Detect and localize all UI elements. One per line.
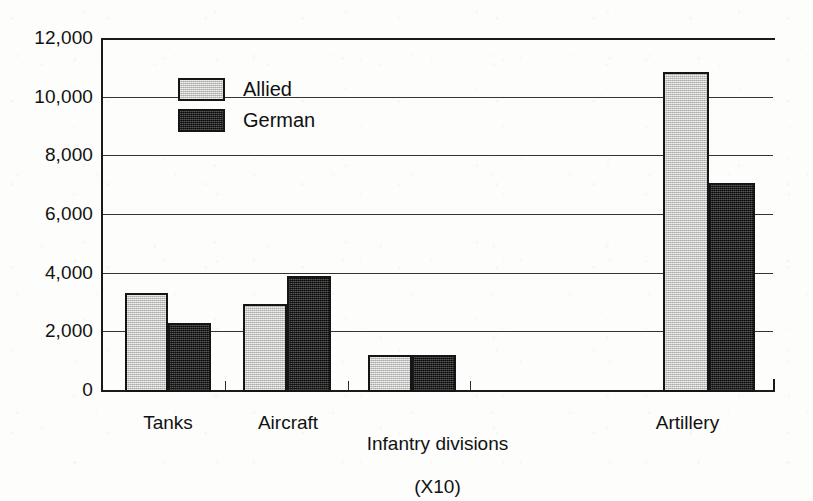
bar-tanks-allied	[125, 293, 168, 392]
x-axis-right-end-tick	[773, 379, 775, 392]
legend-label-german: German	[243, 109, 315, 132]
y-tick-2000: 2,000	[5, 320, 93, 342]
bar-aircraft-allied	[243, 304, 287, 392]
chart-legend: Allied German	[178, 74, 315, 136]
legend-item-allied: Allied	[178, 74, 315, 105]
legend-label-allied: Allied	[243, 78, 292, 101]
y-tick-4000: 4,000	[5, 262, 93, 284]
bar-aircraft-german	[287, 276, 331, 392]
bar-artillery-german	[709, 183, 755, 392]
x-category-label-artillery: Artillery	[600, 412, 775, 433]
y-tick-8000: 8,000	[5, 144, 93, 166]
y-axis-tick-labels: 12,000 10,000 8,000 6,000 4,000 2,000 0	[0, 0, 93, 471]
legend-swatch-german-icon	[178, 109, 225, 132]
x-category-label-tanks: Tanks	[108, 412, 228, 433]
x-category-label-infantry-line1: Infantry divisions	[350, 433, 525, 454]
legend-item-german: German	[178, 105, 315, 136]
y-tick-0: 0	[5, 379, 93, 401]
x-tick-separator-2	[348, 381, 349, 391]
legend-swatch-allied-icon	[178, 78, 225, 101]
bar-infantry-german	[412, 355, 456, 392]
y-tick-6000: 6,000	[5, 203, 93, 225]
bar-tanks-german	[168, 323, 211, 392]
y-tick-10000: 10,000	[5, 86, 93, 108]
x-category-label-aircraft: Aircraft	[228, 412, 348, 433]
x-category-label-infantry-line2: (X10)	[350, 476, 525, 497]
x-tick-separator-3	[470, 381, 471, 391]
x-tick-separator-1	[225, 381, 226, 391]
bar-infantry-allied	[368, 355, 412, 392]
y-tick-12000: 12,000	[5, 27, 93, 49]
x-category-label-infantry-divisions: Infantry divisions (X10)	[350, 412, 525, 501]
bar-artillery-allied	[663, 72, 709, 392]
